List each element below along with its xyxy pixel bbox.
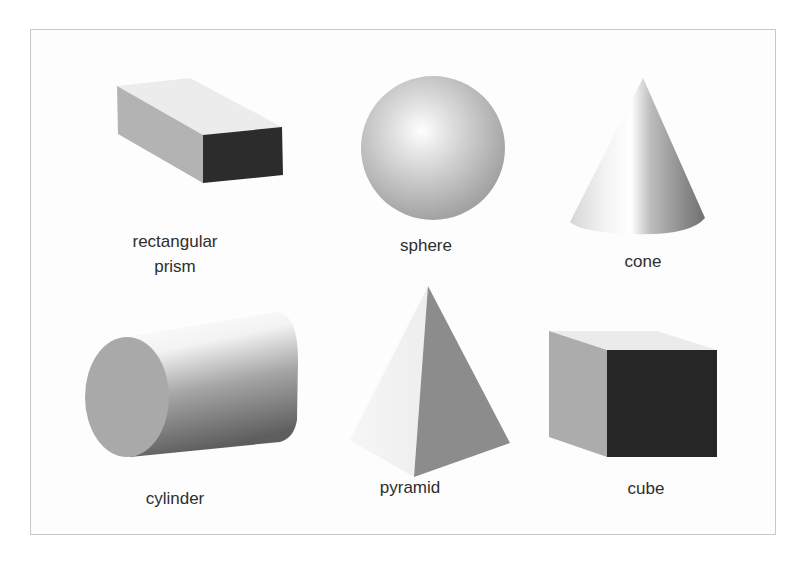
cube-shape [549,331,717,457]
cone-shape [570,78,705,234]
pyramid-shape [350,286,510,477]
cube-front-face [607,350,717,457]
cube-side-face [549,331,607,457]
pyramid-front-face [414,286,510,477]
cone-body [570,78,705,234]
sphere-body [361,76,505,220]
label-pyramid: pyramid [380,477,440,499]
label-cone: cone [625,251,662,273]
prism-front-face [203,127,283,183]
label-cube: cube [628,478,665,500]
label-rectangular-prism-line2: prism [132,256,217,278]
label-sphere: sphere [400,235,452,257]
label-cylinder: cylinder [146,488,205,510]
rectangular-prism-shape [117,78,283,183]
label-rectangular-prism-line1: rectangular [132,231,217,253]
cylinder-end-face [85,337,169,457]
cylinder-shape [85,312,298,457]
label-rectangular-prism: rectangular prism [132,231,217,278]
sphere-shape [361,76,505,220]
